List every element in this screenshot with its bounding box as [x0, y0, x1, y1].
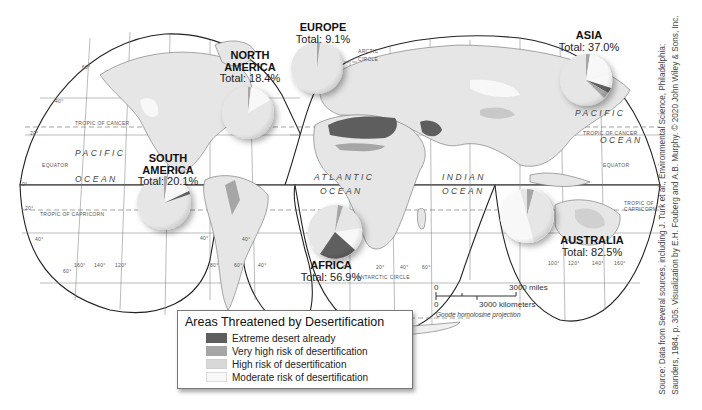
legend: Areas Threatened by Desertification Extr… — [177, 310, 413, 389]
swatch-moderate — [206, 372, 227, 382]
lat-label: 40° — [242, 236, 250, 242]
scale-km: 3000 kilometers — [479, 300, 535, 309]
pie-africa — [308, 205, 362, 259]
tropic-capricorn-label: TROPIC OF CAPRICORN — [40, 211, 104, 217]
scale-zero-km: 0 — [434, 300, 438, 309]
swatch-high — [206, 359, 227, 369]
land-madagascar — [417, 208, 425, 229]
lat-label: 40° — [35, 236, 43, 242]
label-africa: AFRICA Total: 56.9% — [296, 260, 366, 283]
lon-label: 160° — [74, 262, 86, 268]
source-line-1: Source: Data from Several sources, inclu… — [657, 15, 670, 394]
tropic-cancer-east-label: TROPIC OF CANCER — [583, 130, 638, 136]
projection-label: Goode homolosine projection — [436, 311, 521, 318]
ocean-pacific-east-1: PACIFIC — [575, 108, 625, 118]
lat-label: 40° — [200, 235, 208, 241]
lat-label: 20° — [30, 130, 38, 136]
label-europe: EUROPE Total: 9.1% — [288, 22, 358, 45]
label-australia: AUSTRALIA Total: 82.5% — [556, 235, 628, 258]
pie-asia — [560, 54, 612, 106]
region-name: ASIA — [554, 30, 624, 42]
ocean-atlantic-2: OCEAN — [320, 186, 363, 196]
lon-label: 160° — [614, 260, 626, 266]
legend-item-high: High risk of desertification — [206, 358, 347, 370]
scale-miles: 3000 miles — [509, 283, 548, 292]
scale-zero-miles: 0 — [434, 283, 438, 292]
lobe-south-pacific — [20, 185, 225, 313]
legend-label: Moderate risk of desertification — [232, 372, 368, 383]
ocean-pacific-west-2: OCEAN — [75, 174, 118, 184]
region-name: EUROPE — [288, 22, 358, 34]
region-total: Total: 82.5% — [556, 247, 628, 259]
region-total: Total: 37.0% — [554, 42, 624, 54]
lon-label: 60° — [234, 262, 242, 268]
region-total: Total: 9.1% — [288, 34, 358, 46]
lon-label: 0° — [343, 264, 348, 270]
lat-label: 0° — [22, 181, 27, 187]
legend-label: Extreme desert already — [232, 333, 335, 344]
label-south-america: SOUTH AMERICA Total: 20.1% — [133, 153, 203, 188]
source-line-2: Saunders, 1984, p. 305. Visualization by… — [669, 15, 682, 394]
legend-label: Very high risk of desertification — [232, 346, 368, 357]
pie-europe — [291, 42, 343, 94]
lat-label: 40° — [55, 98, 63, 104]
pie-north-america — [222, 87, 274, 139]
swatch-very-high — [206, 346, 227, 356]
lat-label: 60° — [82, 64, 90, 70]
lon-label: 40° — [258, 262, 266, 268]
tropic-cancer-label: TROPIC OF CANCER — [75, 120, 130, 126]
lon-label: 140° — [94, 262, 106, 268]
legend-item-very-high: Very high risk of desertification — [206, 345, 368, 357]
arctic-circle-label-2: CIRCLE — [358, 56, 378, 62]
lon-label: 140° — [592, 260, 604, 266]
legend-title: Areas Threatened by Desertification — [185, 315, 384, 329]
region-name: AUSTRALIA — [556, 235, 628, 247]
ocean-pacific-west-1: PACIFIC — [75, 148, 125, 158]
region-total: Total: 56.9% — [296, 272, 366, 284]
lon-label: 20° — [376, 264, 384, 270]
lon-label: 120° — [568, 260, 580, 266]
region-total: Total: 18.4% — [212, 73, 288, 85]
legend-item-moderate: Moderate risk of desertification — [206, 371, 368, 383]
lat-label: 60° — [63, 268, 71, 274]
ocean-indian-2: OCEAN — [442, 186, 485, 196]
lon-label: 60° — [422, 264, 430, 270]
legend-label: High risk of desertification — [232, 359, 347, 370]
arctic-circle-label-1: ARCTIC — [358, 48, 378, 54]
pie-australia — [500, 189, 554, 243]
label-north-america: NORTH AMERICA Total: 18.4% — [212, 50, 288, 85]
source-text: Source: Data from Several sources, inclu… — [657, 15, 682, 394]
region-name: NORTH — [212, 50, 288, 62]
lon-label: 40° — [400, 264, 408, 270]
ocean-atlantic-1: ATLANTIC — [314, 172, 374, 182]
antarctic-circle-label: ANTARCTIC CIRCLE — [357, 274, 410, 280]
equator-east-label: EQUATOR — [603, 162, 629, 168]
legend-item-extreme: Extreme desert already — [206, 332, 335, 344]
swatch-extreme — [206, 333, 227, 343]
lon-label: 80° — [210, 262, 218, 268]
lon-label: 100° — [548, 260, 560, 266]
region-total: Total: 20.1% — [133, 176, 203, 188]
lat-label: 20° — [25, 205, 33, 211]
ocean-indian-1: INDIAN — [442, 172, 486, 182]
region-name: AFRICA — [296, 260, 366, 272]
source-credit: Source: Data from Several sources, inclu… — [636, 0, 702, 410]
region-name: SOUTH — [133, 153, 203, 165]
lon-label: 120° — [115, 262, 127, 268]
label-asia: ASIA Total: 37.0% — [554, 30, 624, 53]
equator-label: EQUATOR — [42, 162, 68, 168]
